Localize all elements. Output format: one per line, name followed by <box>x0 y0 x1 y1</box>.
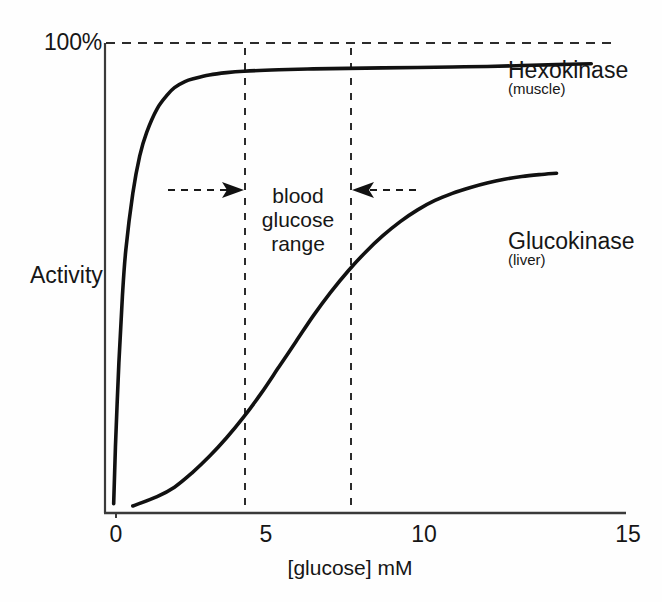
axis-lines <box>104 43 626 513</box>
hexokinase-curve <box>114 64 592 504</box>
glucokinase-curve <box>133 173 557 506</box>
range-arrow-right <box>352 182 420 198</box>
x-tick-label-15: 15 <box>615 521 641 548</box>
x-axis-title: [glucose] mM <box>288 556 413 580</box>
y-axis-title: Activity <box>30 262 103 289</box>
blood-glucose-range-annotation: blood glucose range <box>262 184 334 256</box>
chart-figure: 100% Activity 0 5 10 15 [glucose] mM Hex… <box>0 0 662 602</box>
y-axis-max-label: 100% <box>44 29 102 56</box>
range-annotation-line-1: blood <box>262 184 334 208</box>
hexokinase-series-sublabel: (muscle) <box>508 80 566 97</box>
glucokinase-series-sublabel: (liver) <box>508 251 546 268</box>
x-tick-label-10: 10 <box>411 521 437 548</box>
range-annotation-line-2: glucose <box>262 208 334 232</box>
x-tick-label-5: 5 <box>260 521 273 548</box>
x-tick-label-0: 0 <box>110 521 123 548</box>
range-arrow-left <box>168 182 244 198</box>
range-annotation-line-3: range <box>262 232 334 256</box>
